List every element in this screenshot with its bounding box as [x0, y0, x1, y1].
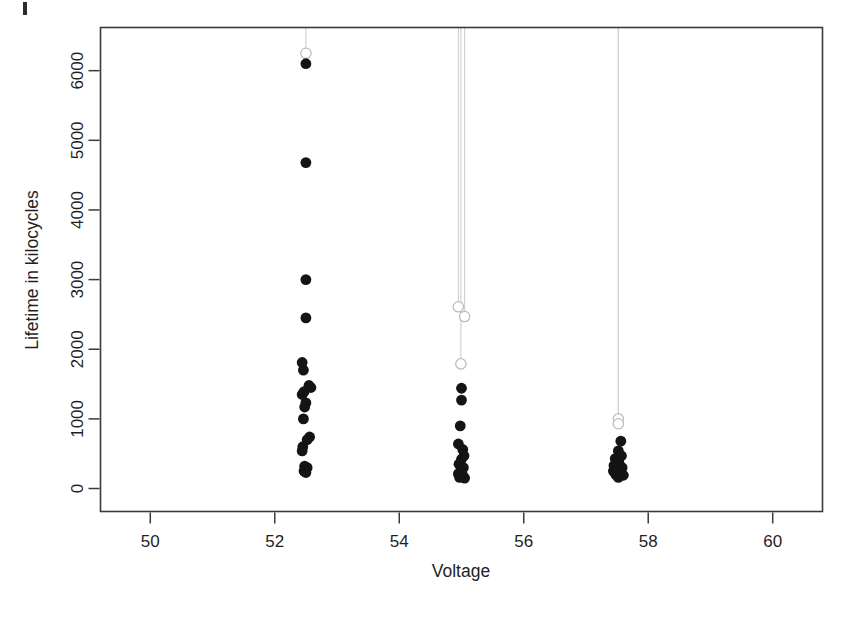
censored-point	[459, 311, 469, 321]
y-tick-label-1000: 1000	[68, 400, 87, 438]
scatter-plot: 505254565860 0100020003000400050006000 V…	[0, 0, 850, 617]
censored-point	[456, 359, 466, 369]
x-tick-label-52: 52	[265, 532, 284, 551]
y-tick-label-2000: 2000	[68, 330, 87, 368]
failure-point	[455, 420, 466, 431]
plot-frame	[101, 28, 823, 512]
failure-point	[613, 472, 624, 483]
failure-point	[300, 467, 311, 478]
y-tick-label-0: 0	[68, 484, 87, 493]
x-axis-ticks: 505254565860	[141, 513, 782, 551]
y-tick-label-6000: 6000	[68, 52, 87, 90]
x-tick-label-50: 50	[141, 532, 160, 551]
failure-point	[615, 436, 626, 447]
censored-point	[301, 48, 311, 58]
failure-point	[300, 58, 311, 69]
failure-point	[459, 473, 470, 484]
x-axis-title: Voltage	[432, 561, 490, 581]
failure-point	[298, 413, 309, 424]
figure-canvas: 505254565860 0100020003000400050006000 V…	[0, 0, 850, 617]
censored-point	[613, 419, 623, 429]
censored-point	[453, 302, 463, 312]
failure-point	[298, 365, 309, 376]
failure-point	[297, 446, 308, 457]
failure-point	[300, 157, 311, 168]
y-tick-label-3000: 3000	[68, 261, 87, 299]
failure-point	[300, 274, 311, 285]
failure-point	[300, 313, 311, 324]
failure-point	[456, 395, 467, 406]
x-tick-label-56: 56	[514, 532, 533, 551]
x-tick-label-58: 58	[639, 532, 658, 551]
x-tick-label-60: 60	[763, 532, 782, 551]
x-tick-label-54: 54	[390, 532, 409, 551]
censored-point-group	[301, 48, 624, 429]
y-tick-label-4000: 4000	[68, 191, 87, 229]
y-axis-title: Lifetime in kilocycles	[22, 190, 42, 350]
y-tick-label-5000: 5000	[68, 121, 87, 159]
failure-point	[299, 402, 310, 413]
failure-point-group	[297, 58, 629, 483]
y-axis-ticks: 0100020003000400050006000	[68, 52, 100, 493]
failure-point	[456, 383, 467, 394]
